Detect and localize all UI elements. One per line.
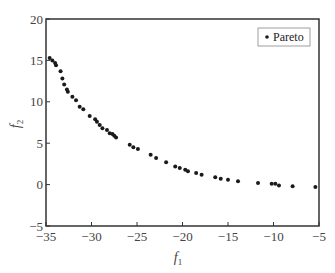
data-point	[200, 173, 204, 177]
y-tick-label: 15	[30, 53, 43, 68]
data-point	[194, 171, 198, 175]
data-point	[164, 160, 168, 164]
x-tick-label: −35	[36, 229, 56, 244]
y-tick-label: 10	[30, 94, 43, 109]
x-tick-label: −25	[127, 229, 147, 244]
legend-label: Pareto	[273, 30, 304, 44]
x-tick-label: −10	[263, 229, 283, 244]
data-point	[74, 98, 78, 102]
pareto-scatter-chart: −505101520 −35−30−25−20−15−10−5 Pareto f…	[0, 0, 335, 273]
data-point	[88, 114, 92, 118]
data-point	[66, 90, 70, 94]
plot-frame	[46, 19, 319, 226]
data-point	[154, 156, 158, 160]
legend: Pareto	[258, 28, 310, 46]
data-point	[62, 82, 66, 86]
data-point	[219, 177, 223, 181]
data-point	[277, 183, 281, 187]
data-point	[81, 107, 85, 111]
data-point	[98, 123, 102, 127]
y-tick-label: 5	[37, 136, 44, 151]
x-tick-label: −5	[312, 229, 326, 244]
x-tick-label: −20	[172, 229, 192, 244]
pareto-points	[48, 56, 318, 189]
data-point	[114, 135, 118, 139]
data-point	[186, 169, 190, 173]
data-point	[131, 145, 135, 149]
y-axis-ticks: −505101520	[29, 12, 50, 234]
data-point	[178, 166, 182, 170]
data-point	[270, 182, 274, 186]
data-point	[60, 77, 64, 81]
data-point	[100, 126, 104, 130]
y-tick-label: 20	[30, 12, 43, 27]
data-point	[59, 69, 63, 73]
data-point	[70, 95, 74, 99]
x-tick-label: −15	[218, 229, 238, 244]
data-point	[136, 147, 140, 151]
data-point	[273, 182, 277, 186]
data-point	[313, 185, 317, 189]
y-axis-label: f2	[8, 120, 25, 128]
data-point	[256, 181, 260, 185]
legend-marker-icon	[265, 35, 269, 39]
x-axis-label: f1	[174, 250, 182, 267]
data-point	[173, 164, 177, 168]
data-point	[95, 120, 99, 124]
data-point	[149, 153, 153, 157]
data-point	[226, 178, 230, 182]
data-point	[213, 175, 217, 179]
data-point	[291, 184, 295, 188]
x-tick-label: −30	[81, 229, 101, 244]
data-point	[236, 179, 240, 183]
data-point	[78, 105, 82, 109]
data-point	[128, 143, 132, 147]
y-tick-label: 0	[37, 177, 44, 192]
data-point	[54, 63, 58, 67]
data-point	[105, 128, 109, 132]
